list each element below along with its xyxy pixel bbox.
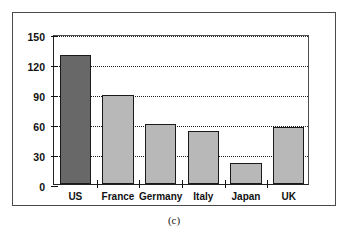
bar-france bbox=[102, 95, 134, 184]
y-axis-tick-label: 30 bbox=[33, 152, 45, 163]
gridline bbox=[54, 36, 308, 37]
y-axis-tick-label: 0 bbox=[39, 182, 45, 193]
bar-japan bbox=[230, 163, 262, 184]
y-axis-tick-label: 150 bbox=[27, 32, 45, 43]
x-axis-tick bbox=[139, 180, 140, 188]
figure-caption: (c) bbox=[0, 214, 348, 226]
y-axis-tick: 150 bbox=[51, 36, 58, 37]
y-axis-tick-label: 90 bbox=[33, 92, 45, 103]
bar-germany bbox=[145, 124, 177, 184]
gridline bbox=[54, 126, 308, 127]
x-axis-label-uk: UK bbox=[281, 192, 295, 202]
x-axis-tick bbox=[267, 180, 268, 188]
bar-uk bbox=[273, 127, 305, 184]
x-axis-tick bbox=[97, 180, 98, 188]
x-axis-tick bbox=[225, 180, 226, 188]
gridline bbox=[54, 96, 308, 97]
y-axis-tick: 0 bbox=[51, 186, 58, 187]
y-axis-tick: 90 bbox=[51, 96, 58, 97]
y-axis-tick: 60 bbox=[51, 126, 58, 127]
x-axis-tick bbox=[182, 180, 183, 188]
plot-area: 0306090120150 USFranceGermanyItalyJapanU… bbox=[53, 35, 309, 185]
y-axis-tick: 30 bbox=[51, 156, 58, 157]
x-axis-label-italy: Italy bbox=[193, 192, 213, 202]
bar-italy bbox=[188, 131, 220, 184]
x-axis-label-us: US bbox=[68, 192, 82, 202]
bar-us bbox=[60, 55, 92, 184]
gridline bbox=[54, 66, 308, 67]
x-axis-label-france: France bbox=[102, 192, 135, 202]
y-axis-tick-label: 120 bbox=[27, 62, 45, 73]
x-axis-label-japan: Japan bbox=[232, 192, 261, 202]
figure-frame: 0306090120150 USFranceGermanyItalyJapanU… bbox=[12, 12, 336, 206]
gridline bbox=[54, 156, 308, 157]
figure-panel: 0306090120150 USFranceGermanyItalyJapanU… bbox=[0, 0, 348, 239]
y-axis-tick: 120 bbox=[51, 66, 58, 67]
x-axis-label-germany: Germany bbox=[139, 192, 182, 202]
y-axis-tick-label: 60 bbox=[33, 122, 45, 133]
